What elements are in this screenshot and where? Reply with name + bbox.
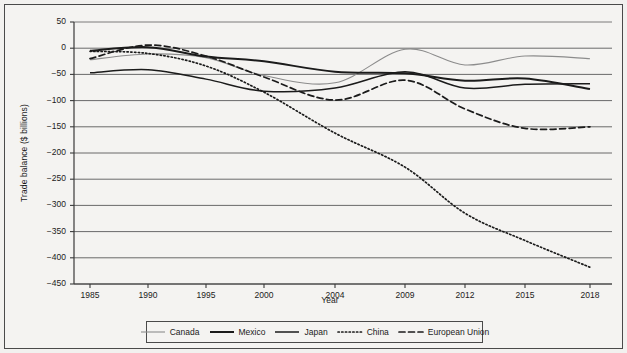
x-tick-label: 2012 (442, 290, 488, 300)
y-tick-label: −250 (26, 173, 66, 183)
chart-figure: 500−50−100−150−200−250−300−350−400−450 1… (0, 0, 627, 353)
x-tick-label: 2018 (567, 290, 613, 300)
legend-swatch-icon (140, 327, 166, 337)
x-tick-label: 2000 (241, 290, 287, 300)
x-tick-label: 1985 (67, 290, 113, 300)
x-tick-label: 1995 (183, 290, 229, 300)
legend-item-china[interactable]: China (337, 327, 389, 337)
x-tick-label: 2015 (502, 290, 548, 300)
legend-item-european-union[interactable]: European Union (398, 327, 489, 337)
legend-item-canada[interactable]: Canada (140, 327, 200, 337)
plot-area: 500−50−100−150−200−250−300−350−400−450 1… (0, 0, 627, 353)
x-tick-label: 2009 (382, 290, 428, 300)
series-line-china (90, 51, 590, 267)
x-tick-label: 1990 (125, 290, 171, 300)
y-tick-label: −150 (26, 121, 66, 131)
y-tick-label: −350 (26, 226, 66, 236)
legend-swatch-icon (274, 327, 300, 337)
legend-item-japan[interactable]: Japan (274, 327, 327, 337)
legend-label: European Union (428, 327, 489, 337)
legend-item-mexico[interactable]: Mexico (209, 327, 266, 337)
legend-label: Canada (170, 327, 200, 337)
y-tick-label: −300 (26, 199, 66, 209)
gridlines (74, 22, 612, 284)
y-tick-label: −400 (26, 252, 66, 262)
legend-label: China (367, 327, 389, 337)
y-tick-label: 0 (26, 42, 66, 52)
legend-swatch-icon (337, 327, 363, 337)
x-axis-title: Year (290, 295, 370, 305)
chart-legend: CanadaMexicoJapanChinaEuropean Union (146, 321, 483, 343)
legend-label: Japan (304, 327, 327, 337)
series-line-mexico (90, 47, 590, 89)
series-lines (90, 45, 590, 267)
y-axis-title: Trade balance ($ billions) (19, 73, 29, 233)
y-tick-label: −100 (26, 95, 66, 105)
y-tick-label: −50 (26, 68, 66, 78)
legend-swatch-icon (209, 327, 235, 337)
legend-label: Mexico (239, 327, 266, 337)
legend-swatch-icon (398, 327, 424, 337)
y-tick-label: −200 (26, 147, 66, 157)
y-tick-label: −450 (26, 278, 66, 288)
y-tick-label: 50 (26, 16, 66, 26)
